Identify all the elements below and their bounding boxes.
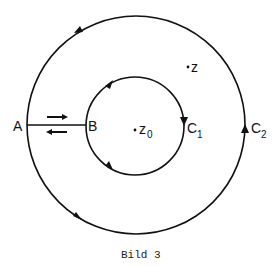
label-z0-subscript: 0 (147, 129, 153, 140)
inner-circle-c1 (86, 77, 184, 175)
label-b: B (88, 118, 97, 134)
point-z0-dot (134, 129, 137, 132)
arrow-left-icon (46, 129, 67, 135)
outer-arrowhead-bottom-left-icon (73, 212, 82, 220)
label-c2-subscript: 2 (261, 129, 267, 140)
label-z: z (191, 59, 198, 75)
label-c2: C (251, 120, 261, 136)
label-z0: z (139, 121, 146, 137)
point-z-dot (187, 66, 190, 69)
label-c1: C (187, 120, 197, 136)
arrow-right-icon (47, 114, 68, 120)
outer-arrowhead-right-icon (241, 124, 249, 133)
label-c1-subscript: 1 (197, 129, 203, 140)
outer-arrowhead-top-left-icon (74, 26, 83, 33)
contour-diagram: A B z z 0 C 1 C 2 Bild 3 (0, 0, 276, 266)
label-a: A (13, 118, 23, 134)
inner-arrowhead-top-left-icon (105, 80, 113, 89)
figure-caption: Bild 3 (121, 249, 161, 261)
